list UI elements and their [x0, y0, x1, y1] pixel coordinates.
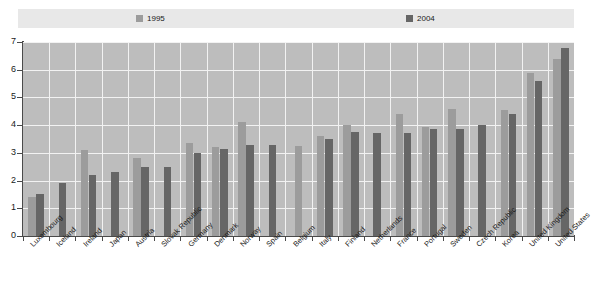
x-axis-tick-mark	[417, 237, 418, 241]
y-axis-tick-label: 5	[0, 92, 16, 101]
bar-2004	[373, 133, 381, 236]
x-axis-tick-mark	[233, 237, 234, 241]
bar-group	[390, 42, 416, 236]
bar-2004	[194, 153, 202, 236]
x-axis-tick-mark	[154, 237, 155, 241]
x-axis-tick-mark	[338, 237, 339, 241]
x-axis-tick-mark	[312, 237, 313, 241]
bar-group	[102, 42, 128, 236]
x-axis-tick-mark	[285, 237, 286, 241]
x-axis-tick-mark	[548, 237, 549, 241]
bar-group	[49, 42, 75, 236]
bar-group	[154, 42, 180, 236]
x-axis-tick-mark	[364, 237, 365, 241]
bar-2004	[535, 81, 543, 236]
x-axis-tick-mark	[259, 237, 260, 241]
y-axis-tick-label: 4	[0, 120, 16, 129]
bar-group	[469, 42, 495, 236]
bar-1995	[81, 150, 89, 236]
bar-group	[128, 42, 154, 236]
bar-group	[522, 42, 548, 236]
x-axis-tick-mark	[469, 237, 470, 241]
bar-2004	[111, 172, 119, 236]
bar-group	[233, 42, 259, 236]
bar-chart-plot-area	[23, 42, 574, 236]
x-axis-tick-mark	[207, 237, 208, 241]
bar-1995	[317, 136, 325, 236]
bar-group	[75, 42, 101, 236]
bar-1995	[133, 158, 141, 236]
legend-label-1995: 1995	[147, 13, 165, 24]
y-axis-tick-label: 6	[0, 65, 16, 74]
x-axis-tick-mark	[574, 237, 575, 241]
y-axis-tick-label: 1	[0, 203, 16, 212]
bar-1995	[28, 197, 36, 236]
bar-group	[417, 42, 443, 236]
x-axis-tick-mark	[443, 237, 444, 241]
bar-1995	[295, 146, 303, 236]
legend-swatch-1995	[136, 15, 143, 22]
y-axis-tick-label: 3	[0, 148, 16, 157]
legend-item-1995: 1995	[136, 13, 165, 24]
y-axis-tick-mark	[17, 236, 22, 237]
legend-label-2004: 2004	[417, 13, 435, 24]
y-axis-tick-label: 0	[0, 231, 16, 240]
bar-2004	[246, 145, 254, 236]
bar-2004	[325, 139, 333, 236]
bar-1995	[448, 109, 456, 236]
y-axis-tick-label: 2	[0, 176, 16, 185]
legend-swatch-2004	[406, 15, 413, 22]
x-axis-tick-mark	[522, 237, 523, 241]
y-axis-tick-mark	[17, 208, 22, 209]
x-axis-tick-mark	[23, 237, 24, 241]
y-axis-tick-mark	[17, 153, 22, 154]
bar-group	[312, 42, 338, 236]
y-axis-tick-label: 7	[0, 37, 16, 46]
bar-group	[364, 42, 390, 236]
bar-group	[23, 42, 49, 236]
y-axis-tick-mark	[17, 42, 22, 43]
bar-1995	[527, 73, 535, 237]
y-axis-tick-mark	[17, 97, 22, 98]
bar-2004	[220, 149, 228, 236]
bar-1995	[422, 127, 430, 236]
bar-2004	[141, 167, 149, 236]
bar-1995	[238, 122, 246, 236]
bar-group	[338, 42, 364, 236]
chart-legend: 1995 2004	[18, 9, 574, 28]
bar-2004	[351, 132, 359, 236]
bar-2004	[456, 129, 464, 236]
bar-1995	[212, 147, 220, 236]
bar-2004	[269, 145, 277, 236]
y-axis-tick-mark	[17, 125, 22, 126]
bar-group	[285, 42, 311, 236]
x-axis-tick-mark	[75, 237, 76, 241]
bar-2004	[478, 125, 486, 236]
bar-2004	[59, 183, 67, 236]
x-axis-tick-mark	[49, 237, 50, 241]
x-axis-tick-mark	[128, 237, 129, 241]
x-axis-tick-mark	[102, 237, 103, 241]
y-axis-tick-mark	[17, 181, 22, 182]
bar-group	[259, 42, 285, 236]
x-axis-tick-mark	[390, 237, 391, 241]
bar-2004	[164, 167, 172, 236]
bar-2004	[404, 133, 412, 236]
y-axis-tick-mark	[17, 70, 22, 71]
x-axis-tick-mark	[180, 237, 181, 241]
bar-group	[443, 42, 469, 236]
bar-2004	[430, 129, 438, 236]
bar-group	[207, 42, 233, 236]
legend-item-2004: 2004	[406, 13, 435, 24]
bar-1995	[343, 125, 351, 236]
x-axis-tick-mark	[495, 237, 496, 241]
